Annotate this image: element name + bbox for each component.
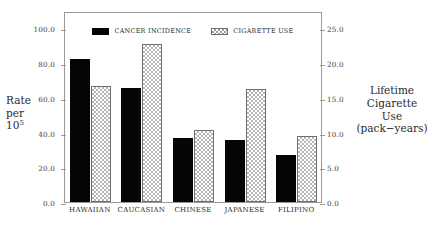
left-tick-label-20.0: 20.0 (0, 164, 55, 173)
right-tick-label-10.0: 10.0 (327, 129, 344, 138)
right-tick-label-5.0: 5.0 (327, 164, 339, 173)
left-tick-label-0.0: 0.0 (0, 199, 55, 208)
bar-cigarette-use-hawaiian[interactable] (91, 86, 111, 202)
left-axis-tick (61, 169, 66, 170)
bar-cigarette-use-filipino[interactable] (297, 136, 317, 202)
bar-cigarette-use-caucasian[interactable] (142, 44, 162, 202)
legend-entry-cancer-incidence: CANCER INCIDENCE (92, 27, 191, 35)
plot-frame (64, 12, 322, 203)
bar-group-chinese (173, 13, 214, 202)
left-tick-label-60.0: 60.0 (0, 94, 55, 103)
bar-group-filipino (276, 13, 317, 202)
right-axis-tick (320, 135, 325, 136)
right-tick-label-25.0: 25.0 (327, 25, 344, 34)
x-tick-label-filipino: FILIPINO (278, 206, 314, 214)
solid-black-swatch-icon (92, 28, 109, 35)
chart-figure: Rate per 105 Lifetime Cigarette Use (pac… (0, 0, 439, 239)
left-axis-tick (61, 135, 66, 136)
right-axis-tick (320, 100, 325, 101)
right-tick-label-20.0: 20.0 (327, 60, 344, 69)
legend-entry-cigarette-use: CIGARETTE USE (211, 27, 293, 35)
x-axis-tick-labels: HAWAIIANCAUCASIANCHINESEJAPANESEFILIPINO (64, 206, 322, 222)
hatched-swatch-icon (211, 28, 228, 35)
bar-group-hawaiian (70, 13, 111, 202)
x-tick-label-hawaiian: HAWAIIAN (69, 206, 111, 214)
bar-cancer-incidence-chinese[interactable] (173, 138, 193, 202)
left-tick-label-40.0: 40.0 (0, 129, 55, 138)
left-axis-tick (61, 100, 66, 101)
bar-cigarette-use-chinese[interactable] (194, 130, 214, 202)
bar-cancer-incidence-japanese[interactable] (225, 140, 245, 203)
right-axis-tick (320, 204, 325, 205)
right-axis-tick (320, 65, 325, 66)
x-tick-label-caucasian: CAUCASIAN (118, 206, 166, 214)
left-axis-tick (61, 204, 66, 205)
x-tick-label-chinese: CHINESE (174, 206, 211, 214)
bar-cancer-incidence-filipino[interactable] (276, 155, 296, 202)
right-tick-label-0.0: 0.0 (327, 199, 339, 208)
plot-area (65, 13, 321, 202)
left-tick-label-80.0: 80.0 (0, 60, 55, 69)
bar-cancer-incidence-caucasian[interactable] (121, 88, 141, 202)
right-tick-label-15.0: 15.0 (327, 94, 344, 103)
legend-label-cigarette-use: CIGARETTE USE (233, 27, 293, 35)
left-tick-label-100.0: 100.0 (0, 25, 55, 34)
left-axis-tick (61, 65, 66, 66)
bar-cancer-incidence-hawaiian[interactable] (70, 59, 90, 202)
bar-group-caucasian (121, 13, 162, 202)
bar-cigarette-use-japanese[interactable] (246, 89, 266, 202)
right-axis-tick-labels: 0.05.010.015.020.025.0 (322, 12, 372, 203)
chart-legend: CANCER INCIDENCE CIGARETTE USE (64, 25, 322, 37)
bar-group-japanese (225, 13, 266, 202)
left-axis-tick-labels: 0.020.040.060.080.0100.0 (0, 12, 60, 203)
right-axis-tick (320, 169, 325, 170)
legend-label-cancer-incidence: CANCER INCIDENCE (114, 27, 191, 35)
x-tick-label-japanese: JAPANESE (225, 206, 265, 214)
